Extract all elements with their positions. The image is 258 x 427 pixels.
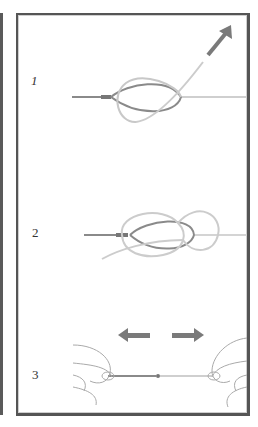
step-1: 1 (18, 15, 247, 155)
knot-step-3-illustration (18, 295, 247, 413)
arrow-left-icon (118, 328, 150, 342)
step-3: 3 (18, 295, 247, 413)
arrow-right-icon (172, 328, 204, 342)
step-2: 2 (18, 155, 247, 295)
left-hand-illustration (73, 345, 114, 405)
arrow-up-right-icon (208, 25, 232, 55)
adjacent-panel-border (0, 13, 3, 415)
knot-step-1-illustration (18, 15, 247, 155)
instruction-panel: 1 2 (16, 13, 250, 416)
right-hand-illustration (208, 338, 247, 407)
knot-step-2-illustration (18, 155, 247, 295)
